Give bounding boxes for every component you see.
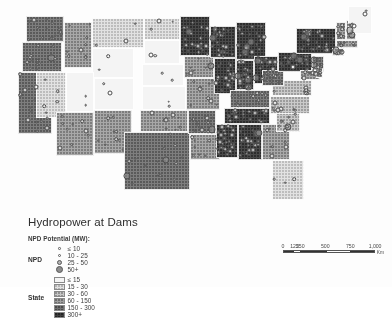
dam-point (229, 149, 233, 153)
dam-point (237, 68, 240, 71)
dam-point (227, 69, 231, 73)
dam-point (256, 143, 260, 147)
dam-point (84, 104, 87, 107)
dam-point (306, 63, 309, 66)
legend-point-label: 25 - 50 (68, 259, 88, 266)
dam-point (165, 127, 168, 130)
dam-point (222, 55, 225, 58)
dam-point (280, 64, 283, 67)
legend-state-label: 150 - 300 (68, 304, 95, 311)
dam-point (193, 146, 196, 149)
dam-point (262, 109, 266, 113)
dam-point (251, 94, 255, 98)
dam-point (198, 154, 201, 157)
dam-point (186, 26, 189, 29)
dam-point (205, 33, 208, 36)
dam-point (221, 45, 225, 49)
state-fill (142, 86, 186, 110)
dam-point (66, 50, 69, 53)
scale-tick-250: 250 (296, 243, 304, 249)
dam-point (264, 119, 267, 122)
dam-point (179, 126, 182, 129)
legend-state-class-6: 300+ (54, 311, 95, 318)
dam-point (257, 24, 260, 27)
legend-state-class-2: 15 - 30 (54, 283, 95, 290)
dam-point (223, 132, 227, 136)
dam-point (221, 76, 224, 79)
dam-point (46, 117, 49, 120)
dam-point (200, 47, 203, 50)
state-ut (66, 72, 94, 112)
legend-point-classes: ≤ 1010 - 2525 - 5050+ (54, 245, 97, 273)
dam-point (23, 88, 28, 93)
medium-light-halftone-swatch (54, 291, 65, 297)
legend-row-label-npd: NPD (28, 256, 54, 263)
dam-point (134, 23, 137, 26)
dam-point (174, 129, 177, 132)
dam-point (36, 59, 40, 63)
legend-state-class-4: 60 - 150 (54, 297, 95, 304)
dam-point (319, 33, 324, 38)
dam-point (239, 154, 242, 157)
dam-point (217, 43, 220, 46)
dam-point (313, 60, 316, 63)
dam-point (272, 73, 276, 77)
dam-point (220, 88, 223, 91)
dam-point (55, 100, 59, 104)
dam-point (56, 89, 60, 93)
dam-point (225, 109, 228, 112)
dam-point (273, 178, 276, 181)
state-fill (272, 160, 304, 200)
legend-state-class-3: 30 - 60 (54, 290, 95, 297)
legend-state-classes: ≤ 1515 - 3030 - 6060 - 150150 - 300300+ (54, 276, 104, 318)
dam-point (150, 28, 153, 31)
dam-point (194, 44, 197, 47)
dam-point (308, 32, 312, 36)
dam-point (174, 144, 178, 148)
dam-point (257, 99, 261, 103)
scale-tick-750: 750 (346, 243, 354, 249)
dam-point (177, 116, 180, 119)
dam-point (240, 130, 243, 133)
dam-point (118, 139, 121, 142)
dam-point (36, 130, 39, 133)
dam-point (43, 104, 47, 108)
dam-point (266, 79, 269, 82)
dam-point (206, 53, 209, 56)
dam-point (236, 102, 239, 105)
dam-point (271, 67, 276, 72)
dam-point (36, 68, 39, 71)
dam-point (181, 156, 184, 159)
dam-point (31, 59, 34, 62)
dam-point (192, 154, 195, 157)
state-id (64, 22, 92, 68)
dam-point (240, 139, 244, 143)
dam-point (255, 74, 258, 77)
state-co (94, 78, 134, 110)
dam-point (227, 30, 230, 33)
dam-point (107, 116, 111, 120)
dam-point (61, 122, 65, 126)
state-ne (142, 64, 184, 86)
map-legend: Hydropower at Dams NPD Potential (MW): N… (28, 216, 368, 321)
dam-point (146, 156, 149, 159)
dam-point (258, 35, 261, 38)
dam-point (104, 143, 107, 146)
dam-point (31, 18, 36, 23)
dam-point (34, 85, 39, 90)
dam-point (66, 128, 69, 131)
dam-point (231, 53, 234, 56)
dam-point (84, 95, 87, 98)
dam-point (242, 116, 245, 119)
dam-point (249, 118, 252, 121)
dam-point (88, 23, 91, 26)
dam-point (229, 63, 233, 67)
dam-point (173, 178, 176, 181)
large-circle-icon (57, 260, 62, 265)
dam-point (340, 23, 344, 27)
dam-point (53, 57, 57, 61)
dam-point (193, 140, 196, 143)
dam-point (247, 27, 250, 30)
dam-point (122, 148, 125, 151)
dam-point (184, 44, 188, 48)
